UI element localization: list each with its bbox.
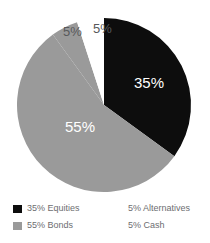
legend-label-equities: 35% Equities [27, 203, 80, 214]
legend-item-cash[interactable]: 5% Cash [114, 218, 209, 233]
pie-plot-area: 35% 55% 5% 5% [0, 0, 210, 196]
legend-column-left: 35% Equities 55% Bonds [13, 201, 108, 235]
legend-swatch-equities [13, 205, 22, 213]
legend-item-alternatives[interactable]: 5% Alternatives [114, 201, 209, 216]
legend-column-right: 5% Alternatives 5% Cash [114, 201, 209, 235]
legend-swatch-alternatives [114, 205, 123, 213]
slice-value-label-bonds: 55% [65, 118, 95, 135]
legend-label-bonds: 55% Bonds [27, 220, 73, 231]
slice-value-label-equities: 35% [134, 74, 164, 91]
slice-value-label-alternatives: 5% [63, 24, 82, 39]
chart-legend: 35% Equities 55% Bonds 5% Alternatives 5… [13, 201, 203, 235]
legend-swatch-cash [114, 222, 123, 230]
legend-item-bonds[interactable]: 55% Bonds [13, 218, 108, 233]
pie-chart-figure: 35% 55% 5% 5% 35% Equities 55% Bonds 5% … [0, 0, 210, 243]
legend-swatch-bonds [13, 222, 22, 230]
slice-value-label-cash: 5% [93, 21, 112, 36]
legend-label-cash: 5% Cash [128, 220, 165, 231]
legend-label-alternatives: 5% Alternatives [128, 203, 190, 214]
pie-slice-group [17, 18, 191, 192]
legend-item-equities[interactable]: 35% Equities [13, 201, 108, 216]
